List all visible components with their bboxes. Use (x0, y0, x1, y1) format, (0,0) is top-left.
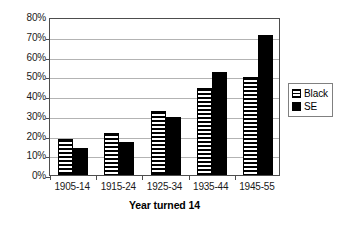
x-axis-tick-label: 1925-34 (141, 181, 187, 193)
y-axis-tick-label: 30% (2, 112, 46, 122)
bar-black-1905-14 (58, 139, 73, 175)
bar-se-1905-14 (73, 148, 88, 175)
legend-item-se: SE (292, 100, 328, 113)
bar-se-1925-34 (166, 117, 181, 175)
legend-swatch-black-icon (292, 89, 301, 98)
bar-se-1945-55 (258, 35, 273, 175)
y-axis-tick-label: 50% (2, 72, 46, 82)
x-axis-tick-label: 1935-44 (188, 181, 234, 193)
x-axis-tick-label: 1945-55 (234, 181, 280, 193)
y-axis-tick-label: 70% (2, 33, 46, 43)
bar-se-1915-24 (119, 142, 134, 175)
bar-black-1945-55 (243, 77, 258, 175)
y-axis-tick-label: 10% (2, 151, 46, 161)
legend: Black SE (288, 83, 333, 117)
y-axis-tick-label: 40% (2, 92, 46, 102)
bar-se-1935-44 (212, 72, 227, 175)
x-axis-tick-label: 1915-24 (95, 181, 141, 193)
x-axis-title: Year turned 14 (49, 199, 280, 211)
legend-label-se: SE (304, 101, 317, 112)
bars-layer (50, 19, 279, 175)
x-axis: 1905-141915-241925-341935-441945-55 (49, 181, 280, 195)
x-axis-tick-mark (235, 176, 236, 180)
bar-chart: 0%10%20%30%40%50%60%70%80% 1905-141915-2… (0, 0, 347, 230)
x-axis-tick-label: 1905-14 (49, 181, 95, 193)
x-axis-tick-mark (189, 176, 190, 180)
legend-swatch-se-icon (292, 102, 301, 111)
plot-area (49, 18, 280, 176)
x-axis-tick-mark (50, 176, 51, 180)
y-axis-tick-label: 0% (2, 171, 46, 181)
bar-black-1935-44 (197, 88, 212, 175)
bar-black-1925-34 (151, 111, 166, 175)
x-axis-tick-mark (96, 176, 97, 180)
y-axis-tick-label: 20% (2, 132, 46, 142)
legend-item-black: Black (292, 87, 328, 100)
y-axis: 0%10%20%30%40%50%60%70%80% (0, 0, 46, 230)
legend-label-black: Black (304, 88, 328, 99)
x-axis-tick-mark (142, 176, 143, 180)
y-axis-tick-label: 80% (2, 13, 46, 23)
bar-black-1915-24 (104, 133, 119, 175)
y-axis-tick-label: 60% (2, 53, 46, 63)
